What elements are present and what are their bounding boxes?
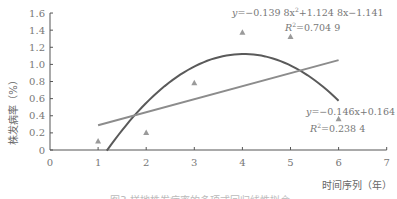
data-point-triangle (143, 129, 149, 135)
figure-caption: 图3 样地株发病率的多项式回归线性拟合 (110, 194, 290, 199)
data-point-triangle (191, 80, 197, 86)
y-tick-label: 1.4 (29, 25, 45, 36)
y-tick-label: 0 (39, 145, 45, 156)
x-axis-title: 时间序列（年） (322, 179, 392, 191)
linear-fit-line (98, 60, 339, 125)
x-tick-label: 0 (47, 157, 53, 168)
chart-canvas: 00.20.40.60.81.01.21.41.6 01234567 株发病率（… (0, 0, 397, 199)
linear-r-squared: R2=0.238 4 (309, 122, 365, 134)
x-tick-label: 4 (239, 157, 245, 168)
y-tick-label: 0.8 (29, 76, 45, 87)
y-axis-title: 株发病率（%） (7, 75, 19, 145)
x-tick-label: 3 (191, 157, 197, 168)
x-tick-label: 5 (287, 157, 293, 168)
chart-series (95, 29, 342, 150)
y-tick-label: 1.2 (29, 42, 45, 53)
x-axis: 01234567 (47, 147, 390, 168)
poly-equation: y=−0.139 8x2+1.124 8x−1.141 (231, 6, 384, 18)
data-point-triangle (95, 138, 101, 144)
x-tick-label: 7 (384, 157, 390, 168)
x-tick-label: 2 (143, 157, 149, 168)
y-tick-label: 1.6 (29, 8, 45, 19)
data-point-triangle (288, 34, 294, 40)
y-tick-label: 0.6 (29, 93, 45, 104)
linear-equation: y=−0.146x+0.164 (305, 106, 395, 117)
y-axis: 00.20.40.60.81.01.21.41.6 (29, 8, 53, 156)
poly-r-squared: R2=0.704 9 (284, 21, 340, 33)
y-tick-label: 0.2 (29, 127, 45, 138)
data-point-triangle (239, 29, 245, 35)
x-tick-label: 6 (335, 157, 341, 168)
y-tick-label: 0.4 (29, 110, 45, 121)
y-tick-label: 1.0 (29, 59, 45, 70)
x-tick-label: 1 (95, 157, 101, 168)
